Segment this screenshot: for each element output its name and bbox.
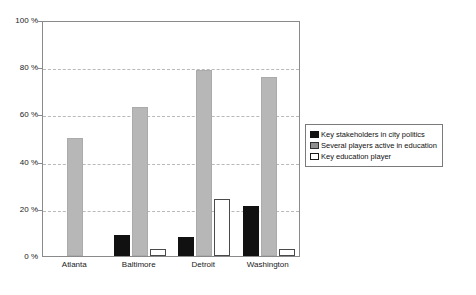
bar-chart: 0 %20 %40 %60 %80 %100 % AtlantaBaltimor… [0, 0, 476, 295]
legend-swatch-gray [310, 142, 319, 149]
bar [261, 77, 277, 256]
bar [132, 107, 148, 256]
bar [67, 138, 83, 256]
legend-item[interactable]: Key education player [310, 151, 437, 162]
bar-group [172, 22, 237, 256]
x-axis-tick-label: Atlanta [62, 260, 87, 270]
bar [150, 249, 166, 256]
bar-group [237, 22, 302, 256]
bar [114, 235, 130, 256]
x-axis-tick-label: Detroit [191, 260, 215, 270]
bar [214, 199, 230, 256]
y-axis-ticks [0, 21, 42, 257]
x-axis-labels: AtlantaBaltimoreDetroitWashington [42, 260, 300, 274]
chart-legend: Key stakeholders in city politicsSeveral… [305, 124, 443, 167]
legend-item[interactable]: Key stakeholders in city politics [310, 129, 437, 140]
legend-item[interactable]: Several players active in education [310, 140, 437, 151]
x-axis-tick-label: Washington [247, 260, 289, 270]
bar-group [43, 22, 108, 256]
legend-swatch-white [310, 153, 319, 160]
legend-item-label: Key education player [321, 152, 391, 161]
bar [279, 249, 295, 256]
bar-group [108, 22, 173, 256]
x-axis-tick-label: Baltimore [122, 260, 156, 270]
legend-item-label: Key stakeholders in city politics [321, 130, 425, 139]
legend-item-label: Several players active in education [321, 141, 437, 150]
bar [178, 237, 194, 256]
plot-area [42, 21, 300, 257]
legend-swatch-black [310, 131, 319, 138]
bar [196, 70, 212, 256]
bar [243, 206, 259, 256]
